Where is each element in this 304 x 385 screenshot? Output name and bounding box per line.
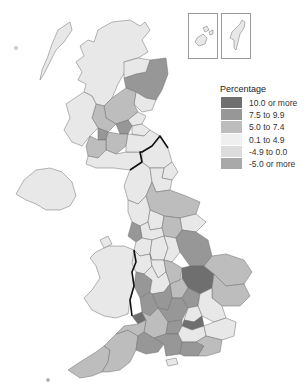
legend-label: 10.0 or more bbox=[249, 98, 297, 108]
region-northern-ireland bbox=[16, 168, 76, 210]
legend-label: 5.0 to 7.4 bbox=[249, 122, 284, 132]
region-cornwall bbox=[68, 346, 110, 378]
region-lanark bbox=[106, 132, 128, 154]
legend-item: -5.0 or more bbox=[221, 158, 304, 170]
legend-label: 0.1 to 4.9 bbox=[249, 135, 284, 145]
legend-item: 10.0 or more bbox=[221, 97, 304, 109]
legend-item: 7.5 to 9.9 bbox=[221, 109, 304, 121]
legend-label: 7.5 to 9.9 bbox=[249, 110, 284, 120]
legend-swatch bbox=[221, 134, 242, 146]
shetland-islands-icon bbox=[222, 14, 250, 58]
legend-item: -4.9 to 0.0 bbox=[221, 146, 304, 158]
legend-label: -5.0 or more bbox=[249, 159, 295, 169]
legend-swatch bbox=[221, 158, 242, 170]
st-kilda bbox=[15, 47, 18, 50]
region-western-isles bbox=[40, 22, 72, 80]
region-wales bbox=[84, 246, 136, 318]
legend: Percentage 10.0 or more 7.5 to 9.9 5.0 t… bbox=[221, 84, 304, 170]
legend-label: -4.9 to 0.0 bbox=[249, 147, 287, 157]
region-lincolnshire bbox=[176, 230, 212, 266]
region-isle-of-wight bbox=[166, 358, 178, 366]
legend-swatch bbox=[221, 121, 242, 133]
legend-swatch bbox=[221, 109, 242, 121]
inset-shetland bbox=[221, 13, 251, 59]
orkney-islands-icon bbox=[189, 14, 217, 58]
legend-item: 5.0 to 7.4 bbox=[221, 121, 304, 133]
legend-title: Percentage bbox=[220, 84, 304, 94]
legend-swatch bbox=[221, 146, 242, 158]
uk-choropleth-map bbox=[0, 0, 304, 385]
legend-swatch bbox=[221, 97, 242, 109]
legend-item: 0.1 to 4.9 bbox=[221, 134, 304, 146]
isles-of-scilly bbox=[47, 379, 50, 382]
inset-orkney bbox=[188, 13, 218, 59]
